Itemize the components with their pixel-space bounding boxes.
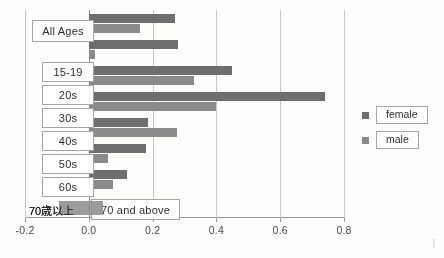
x-tick — [344, 218, 345, 222]
bar-female-6 — [89, 170, 127, 179]
category-label-15-19[interactable]: 15-19 — [42, 62, 94, 82]
category-label-70-and-above[interactable]: 70 and above — [91, 199, 180, 220]
bar-male-2 — [89, 76, 194, 85]
bar-male-3 — [89, 102, 217, 111]
male-swatch-icon — [362, 137, 369, 144]
bar-male-4 — [89, 128, 177, 137]
chart-canvas: -0.20.00.20.40.60.8 70歳以上 All Ages15-192… — [0, 0, 444, 258]
category-label-30s[interactable]: 30s — [42, 108, 94, 128]
x-tick-label: 0.4 — [209, 224, 224, 236]
category-label-20s[interactable]: 20s — [42, 85, 94, 105]
legend-label-male: male — [376, 131, 419, 150]
x-tick-label: -0.2 — [16, 224, 35, 236]
category-label-all-ages[interactable]: All Ages — [32, 20, 94, 42]
bar-female-3 — [89, 92, 325, 101]
x-tick-label: 0.8 — [336, 224, 351, 236]
x-tick — [216, 218, 217, 222]
category-label-40s[interactable]: 40s — [42, 131, 94, 151]
bar-male-1 — [89, 50, 95, 59]
x-tick — [25, 218, 26, 222]
bar-female-1 — [89, 40, 178, 49]
female-swatch-icon — [362, 112, 369, 119]
original-japanese-axis-label-overlay: 70歳以上 — [29, 202, 74, 218]
x-tick-label: 0.6 — [273, 224, 288, 236]
gridline — [280, 10, 281, 218]
category-label-50s[interactable]: 50s — [42, 154, 94, 174]
x-tick-label: 0.0 — [81, 224, 96, 236]
x-tick — [89, 218, 90, 222]
legend: femalemale — [362, 106, 440, 156]
gridline — [216, 10, 217, 218]
category-label-60s[interactable]: 60s — [42, 177, 94, 197]
gridline — [344, 10, 345, 218]
legend-label-female: female — [376, 106, 428, 125]
x-tick — [280, 218, 281, 222]
bar-female-0 — [89, 14, 175, 23]
page-corner-mark: | — [433, 238, 435, 248]
bar-female-2 — [89, 66, 233, 75]
legend-item-female[interactable]: female — [362, 106, 440, 124]
gridline — [25, 10, 26, 218]
x-tick-label: 0.2 — [145, 224, 160, 236]
bar-female-4 — [89, 118, 148, 127]
bar-female-5 — [89, 144, 146, 153]
legend-item-male[interactable]: male — [362, 131, 440, 149]
bar-male-0 — [89, 24, 140, 33]
